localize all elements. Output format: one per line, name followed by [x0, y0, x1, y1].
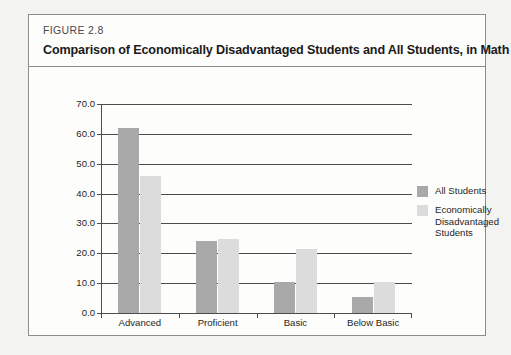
bar [196, 241, 217, 313]
bar [296, 249, 317, 313]
figure-title: Comparison of Economically Disadvantaged… [43, 42, 471, 58]
gridline [101, 164, 412, 165]
y-axis-labels: 0.010.020.030.040.050.060.070.0 [51, 104, 95, 314]
chart-legend: All StudentsEconomically Disadvantaged S… [417, 185, 511, 246]
y-axis-tick-label: 0.0 [55, 307, 95, 318]
x-axis-category-label: Below Basic [334, 317, 412, 328]
bar [352, 297, 373, 313]
bar [374, 282, 395, 313]
chart-area: 0.010.020.030.040.050.060.070.0 Advanced… [29, 67, 485, 335]
legend-item: Economically Disadvantaged Students [417, 204, 511, 239]
x-axis-category-label: Advanced [101, 317, 179, 328]
figure-header: FIGURE 2.8 Comparison of Economically Di… [29, 15, 485, 67]
y-axis-tick-label: 70.0 [55, 98, 95, 109]
legend-swatch [417, 205, 428, 216]
x-axis-labels: AdvancedProficientBasicBelow Basic [101, 317, 412, 337]
y-axis-tick-label: 10.0 [55, 277, 95, 288]
y-axis-tick-label: 30.0 [55, 217, 95, 228]
y-axis-tick-label: 60.0 [55, 128, 95, 139]
legend-item: All Students [417, 185, 511, 197]
y-axis-tick-label: 50.0 [55, 158, 95, 169]
gridline [101, 104, 412, 105]
y-axis-tick-label: 20.0 [55, 247, 95, 258]
bar [140, 176, 161, 313]
y-axis-tick-label: 40.0 [55, 188, 95, 199]
x-axis-category-label: Proficient [179, 317, 257, 328]
bar [218, 239, 239, 313]
bar [274, 282, 295, 313]
figure-number: FIGURE 2.8 [43, 23, 471, 37]
legend-swatch [417, 186, 428, 197]
gridline [101, 134, 412, 135]
figure-card: FIGURE 2.8 Comparison of Economically Di… [28, 14, 486, 336]
plot-area [101, 104, 412, 313]
bar [118, 128, 139, 313]
legend-label: Economically Disadvantaged Students [435, 204, 511, 239]
legend-label: All Students [435, 185, 486, 197]
x-axis-category-label: Basic [257, 317, 335, 328]
